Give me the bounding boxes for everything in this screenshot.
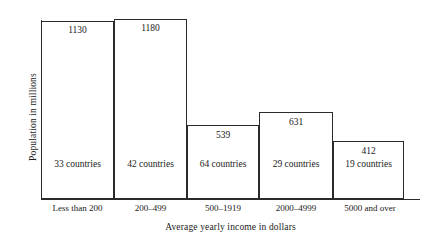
bar-2[interactable] xyxy=(114,19,187,199)
x-tick-label-5: 5000 and over xyxy=(331,203,409,213)
bar-count-label: 19 countries xyxy=(333,159,404,169)
bar-value-label: 412 xyxy=(333,146,404,156)
bars-layer: 113033 countriesLess than 200118042 coun… xyxy=(0,0,447,244)
bar-count-label: 29 countries xyxy=(259,159,333,169)
bar-value-label: 1130 xyxy=(41,25,114,35)
x-tick-label-1: Less than 200 xyxy=(41,203,114,213)
bar-count-label: 64 countries xyxy=(187,159,259,169)
x-tick-label-4: 2000–4999 xyxy=(259,203,333,213)
histogram-chart: Population in millions 113033 countriesL… xyxy=(0,0,447,244)
bar-value-label: 539 xyxy=(187,130,259,140)
bar-1[interactable] xyxy=(41,21,114,199)
x-tick-label-3: 500–1919 xyxy=(187,203,259,213)
bar-count-label: 42 countries xyxy=(114,159,187,169)
bar-count-label: 33 countries xyxy=(41,159,114,169)
x-axis-title: Average yearly income in dollars xyxy=(41,222,420,232)
bar-value-label: 631 xyxy=(259,117,333,127)
bar-value-label: 1180 xyxy=(114,23,187,33)
x-tick-label-2: 200–499 xyxy=(114,203,187,213)
